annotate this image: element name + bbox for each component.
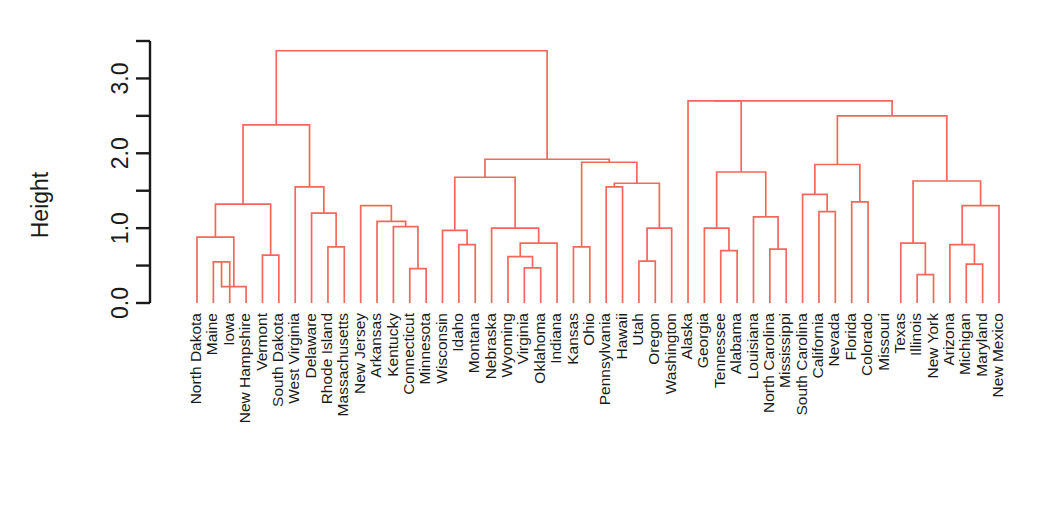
leaf-label: Kansas [564, 313, 581, 365]
leaf-label: Oregon [645, 313, 662, 365]
leaf-label: Connecticut [400, 312, 417, 395]
leaf-label: Arkansas [367, 313, 384, 378]
leaf-label: New Mexico [989, 313, 1006, 397]
y-tick-label: 3.0 [107, 62, 133, 94]
plot-background [0, 0, 1041, 515]
leaf-label: Colorado [858, 313, 875, 376]
leaf-label: Illinois [907, 313, 924, 356]
leaf-label: Oklahoma [531, 313, 548, 384]
leaf-label: Massachusetts [334, 313, 351, 417]
leaf-label: Tennessee [711, 313, 728, 388]
leaf-label: North Carolina [760, 313, 777, 413]
leaf-label: South Carolina [793, 313, 810, 416]
leaf-label: Michigan [956, 313, 973, 375]
leaf-label: Wyoming [498, 313, 515, 377]
y-tick-label: 2.0 [107, 137, 133, 169]
leaf-label: Nevada [825, 313, 842, 367]
leaf-label: Minnesota [416, 313, 433, 385]
leaf-label: Utah [629, 313, 646, 346]
leaf-label: Ohio [580, 313, 597, 346]
leaf-label: Pennsylvania [596, 313, 613, 406]
leaf-label: Wisconsin [433, 313, 450, 384]
leaf-label: North Dakota [187, 313, 204, 405]
leaf-label: Maryland [973, 313, 990, 377]
leaf-label: New Jersey [351, 313, 368, 394]
leaf-label: Maine [203, 313, 220, 355]
leaf-label: Kentucky [384, 313, 401, 377]
leaf-label: West Virginia [285, 313, 302, 404]
leaf-label: New Hampshire [236, 313, 253, 423]
leaf-label: Idaho [449, 313, 466, 352]
leaf-label: Nebraska [482, 313, 499, 380]
leaf-label: Iowa [220, 313, 237, 346]
leaf-label: Missouri [875, 313, 892, 371]
leaf-label: Mississippi [776, 313, 793, 388]
leaf-label: South Dakota [269, 313, 286, 407]
leaf-label: Alabama [727, 313, 744, 375]
leaf-label: New York [924, 313, 941, 379]
dendrogram-canvas: 0.01.02.03.0 North DakotaMaineIowaNew Ha… [0, 0, 1041, 515]
leaf-label: Virginia [514, 313, 531, 365]
leaf-label: Louisiana [744, 313, 761, 380]
leaf-label: Washington [662, 313, 679, 394]
leaf-label: Alaska [678, 313, 695, 360]
leaf-label: California [809, 313, 826, 379]
leaf-label: Texas [891, 313, 908, 354]
leaf-label: Vermont [253, 312, 270, 370]
dendrogram-plot: 0.01.02.03.0 North DakotaMaineIowaNew Ha… [0, 0, 1041, 515]
y-tick-label: 1.0 [107, 212, 133, 244]
leaf-label: Montana [465, 313, 482, 374]
leaf-label: Florida [842, 313, 859, 361]
leaf-label: Rhode Island [318, 313, 335, 404]
leaf-label: Indiana [547, 313, 564, 364]
leaf-label: Georgia [694, 313, 711, 369]
leaf-label: Arizona [940, 313, 957, 366]
leaf-label: Delaware [302, 313, 319, 378]
leaf-label: Hawaii [613, 313, 630, 360]
y-axis-title: Height [27, 171, 53, 238]
y-tick-label: 0.0 [107, 287, 133, 319]
